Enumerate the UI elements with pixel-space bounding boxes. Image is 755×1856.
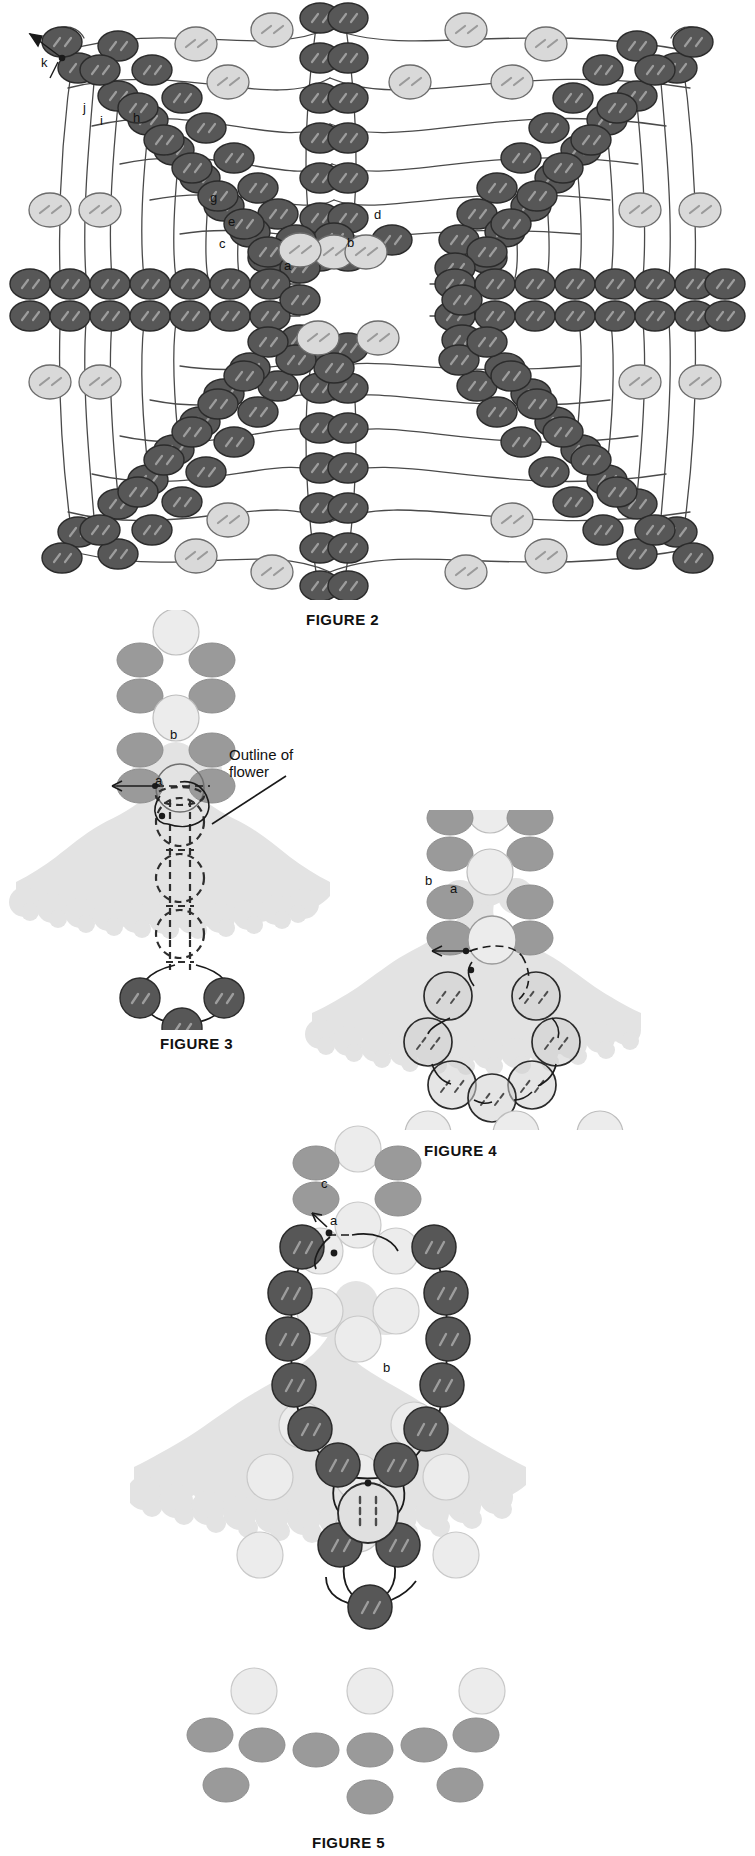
figure-5-callout-a: a — [330, 1213, 337, 1228]
figure-2-callout-k: k — [41, 55, 48, 70]
figure-2-callout-i: i — [100, 113, 103, 128]
figure-2-callout-j: j — [83, 100, 86, 115]
diagram-page: FIGURE 2 k j i h g e c a b d — [0, 0, 755, 1856]
figure-4-callout-a: a — [450, 881, 457, 896]
figure-2-callout-g: g — [210, 190, 217, 205]
figure-3-label: FIGURE 3 — [160, 1035, 233, 1052]
figure-4-callout-b: b — [425, 873, 432, 888]
figure-2-callout-b: b — [347, 235, 354, 250]
figure-5-callout-c: c — [321, 1176, 328, 1191]
figure-5-label: FIGURE 5 — [312, 1834, 385, 1851]
figure-5-callout-b: b — [383, 1360, 390, 1375]
figure-3-picot-bead-right — [204, 978, 244, 1018]
figure-2-callout-d: d — [374, 207, 381, 222]
figure-2-callout-c: c — [219, 236, 226, 251]
figure-4-drawing — [300, 810, 755, 1130]
figure-5-lower-beads — [187, 1668, 505, 1814]
figure-3-outline-label-line1: Outline of — [229, 747, 293, 762]
figure-3-picot-bead-bottom — [162, 1008, 202, 1030]
figure-3-callout-b: b — [170, 727, 177, 742]
figure-3-picot-bead-left — [120, 978, 160, 1018]
figure-2-drawing — [0, 0, 755, 600]
figure-3-outline-label-line2: flower — [229, 764, 269, 779]
figure-5-center-bead-b — [338, 1483, 398, 1543]
figure-2-callout-e: e — [228, 214, 235, 229]
figure-2-callout-h: h — [133, 110, 140, 125]
figure-5-drawing — [130, 1125, 620, 1825]
figure-2-callout-a: a — [284, 258, 291, 273]
figure-3-callout-a: a — [155, 773, 162, 788]
figure-4-top-bead — [468, 916, 516, 964]
